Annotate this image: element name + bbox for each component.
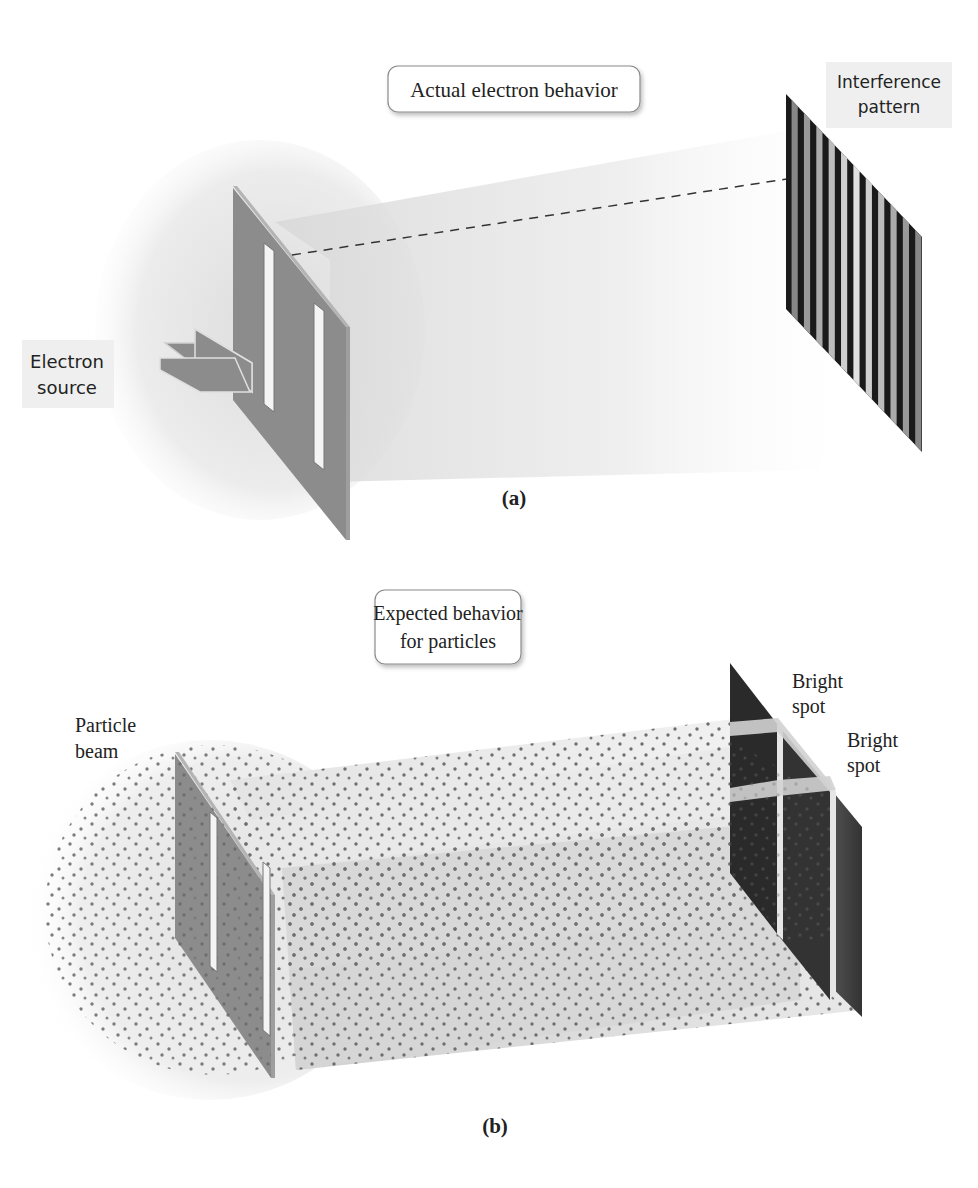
bright-spot-2-label-line2: spot	[847, 754, 881, 777]
panel-a-caption: (a)	[502, 486, 527, 510]
slit-b-1	[210, 812, 217, 972]
panel-a-title: Actual electron behavior	[410, 78, 618, 102]
electron-source-label-line1: Electron	[30, 351, 104, 372]
panel-b-caption: (b)	[482, 1114, 508, 1138]
double-slit-diagram: Actual electron behavior Interference pa…	[0, 0, 978, 1188]
interference-label-line1: Interference	[837, 72, 941, 92]
slit-b-2	[263, 862, 270, 1036]
bright-spot-2-label-line1: Bright	[847, 729, 899, 752]
interference-fringe	[841, 152, 847, 374]
electron-beam-spread	[275, 125, 850, 482]
interference-fringe	[915, 230, 921, 452]
panel-b: Expected behavior for particles Particle…	[25, 590, 899, 1138]
bright-spot-1-label-line2: spot	[792, 695, 826, 718]
particle-beam-label-line1: Particle	[75, 714, 136, 736]
particle-beam-label-line2: beam	[75, 740, 119, 762]
bright-spot-1-label-line1: Bright	[792, 670, 844, 693]
panel-b-title-line1: Expected behavior	[373, 602, 523, 625]
interference-label-line2: pattern	[858, 97, 920, 117]
slit-2	[314, 303, 324, 470]
interference-fringe	[890, 204, 896, 426]
interference-fringe	[878, 191, 884, 413]
interference-fringe	[853, 165, 859, 387]
interference-fringe	[792, 100, 798, 322]
electron-source-label-line2: source	[37, 377, 97, 398]
interference-fringe	[829, 139, 835, 361]
bright-band-2	[830, 784, 836, 1000]
interference-fringe	[804, 113, 810, 335]
panel-b-title-line2: for particles	[400, 630, 496, 653]
interference-fringe	[816, 126, 822, 348]
slit-1	[264, 243, 274, 412]
panel-a: Actual electron behavior Interference pa…	[22, 62, 952, 540]
interference-fringe	[866, 178, 872, 400]
interference-fringe	[903, 217, 909, 439]
